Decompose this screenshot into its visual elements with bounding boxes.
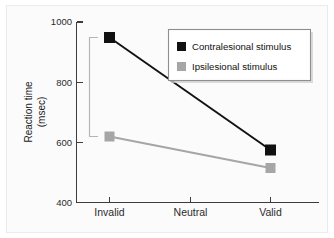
x-tick-label-invalid: Invalid [94, 206, 125, 218]
y-tick-marks [77, 22, 83, 203]
ipsilesional-point-invalid [105, 132, 115, 142]
contralesional-point-invalid [104, 32, 115, 43]
y-tick-label-400: 400 [56, 197, 72, 208]
reaction-time-line-chart: 1000 800 600 400 Reaction time (msec) In… [0, 0, 334, 238]
legend-item-ipsilesional: Ipsilesional stimulus [177, 61, 278, 72]
y-tick-labels: 1000 800 600 400 [51, 16, 72, 208]
ipsilesional-line [110, 137, 271, 169]
legend-label-ipsilesional: Ipsilesional stimulus [192, 61, 278, 72]
legend-item-contralesional: Contralesional stimulus [177, 41, 291, 52]
x-tick-label-valid: Valid [259, 206, 282, 218]
y-tick-label-600: 600 [56, 137, 72, 148]
y-axis-title-line1: Reaction time [23, 81, 34, 143]
x-tick-label-neutral: Neutral [174, 206, 208, 218]
series-ipsilesional-stimulus [105, 132, 276, 174]
y-tick-label-800: 800 [56, 77, 72, 88]
invalid-difference-bracket [90, 38, 99, 137]
legend-label-contralesional: Contralesional stimulus [192, 41, 291, 52]
y-axis-title: Reaction time (msec) [23, 81, 47, 143]
x-tick-labels: Invalid Neutral Valid [94, 206, 282, 218]
legend: Contralesional stimulus Ipsilesional sti… [169, 30, 314, 84]
ipsilesional-point-valid [266, 163, 276, 173]
y-tick-label-1000: 1000 [51, 16, 72, 27]
y-axis-title-line2: (msec) [36, 97, 47, 128]
contralesional-point-valid [265, 145, 276, 156]
black-square-swatch-icon [177, 42, 186, 51]
legend-box [169, 30, 311, 81]
chart-screenshot: 1000 800 600 400 Reaction time (msec) In… [0, 0, 334, 238]
gray-square-swatch-icon [177, 62, 186, 71]
x-tick-marks [110, 197, 271, 203]
